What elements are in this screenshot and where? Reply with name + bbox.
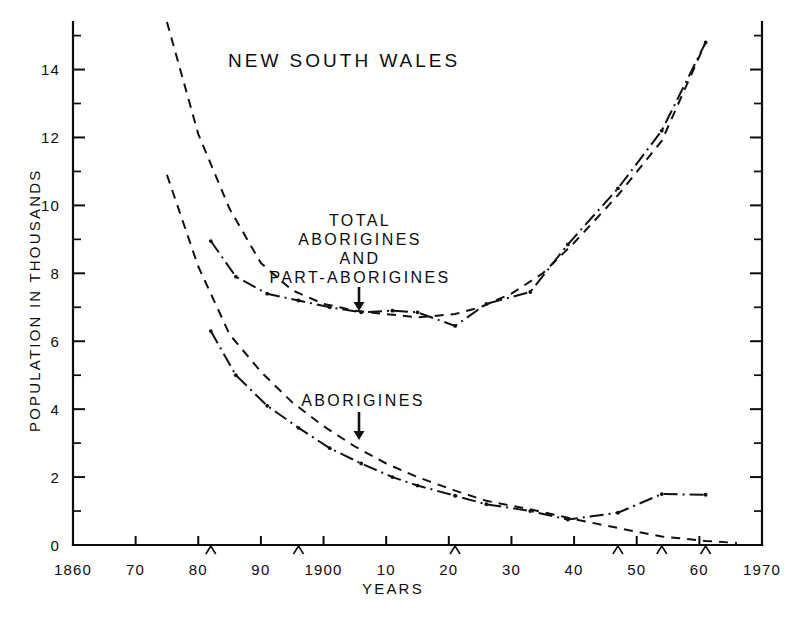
- y-tick-label: 2: [50, 469, 60, 486]
- data-point-markers: [209, 40, 708, 521]
- tick-marks: [73, 36, 762, 545]
- data-point: [359, 310, 363, 314]
- x-tick-label: 10: [377, 561, 396, 578]
- data-point: [416, 484, 420, 488]
- x-tick-label: 30: [502, 561, 521, 578]
- data-point: [328, 305, 332, 309]
- data-point: [616, 187, 620, 191]
- plot-area: 1860708090190010203040506019700246810121…: [0, 0, 804, 619]
- data-point: [453, 324, 457, 328]
- data-point: [485, 302, 489, 306]
- data-point: [616, 511, 620, 515]
- x-tick-label: 90: [251, 561, 270, 578]
- annotation-arrows: [354, 287, 365, 440]
- data-point: [704, 493, 708, 497]
- census-year-marker: [293, 546, 303, 554]
- census-year-markers: [206, 546, 711, 554]
- down-arrow: [354, 412, 365, 440]
- y-tick-label: 8: [50, 265, 60, 282]
- data-point: [416, 310, 420, 314]
- data-point: [234, 373, 238, 377]
- data-point: [704, 40, 708, 44]
- data-point: [566, 518, 570, 522]
- series-line: [167, 22, 706, 317]
- data-point: [391, 475, 395, 479]
- data-point: [566, 243, 570, 247]
- data-point: [265, 292, 269, 296]
- data-point: [297, 299, 301, 303]
- data-point: [391, 309, 395, 313]
- y-tick-label: 4: [50, 401, 60, 418]
- census-year-marker: [206, 546, 216, 554]
- data-point: [297, 426, 301, 430]
- data-series: [167, 22, 737, 543]
- data-point: [209, 329, 213, 333]
- y-tick-label: 0: [50, 537, 60, 554]
- data-point: [660, 129, 664, 133]
- y-tick-label: 14: [41, 61, 60, 78]
- census-year-marker: [657, 546, 667, 554]
- x-tick-label: 80: [189, 561, 208, 578]
- x-tick-label: 20: [439, 561, 458, 578]
- tick-labels: 1860708090190010203040506019700246810121…: [41, 61, 781, 578]
- data-point: [265, 404, 269, 408]
- data-point: [660, 492, 664, 496]
- chart-figure: NEW SOUTH WALES POPULATION IN THOUSANDS …: [0, 0, 804, 619]
- data-point: [453, 494, 457, 498]
- x-tick-label: 40: [565, 561, 584, 578]
- y-tick-label: 6: [50, 333, 60, 350]
- x-tick-label: 1970: [743, 561, 781, 578]
- y-tick-label: 10: [41, 197, 60, 214]
- x-tick-label: 70: [126, 561, 145, 578]
- data-point: [528, 290, 532, 294]
- census-year-marker: [613, 546, 623, 554]
- x-tick-label: 50: [627, 561, 646, 578]
- data-point: [209, 239, 213, 243]
- y-tick-label: 12: [41, 129, 60, 146]
- data-point: [528, 509, 532, 513]
- data-point: [485, 502, 489, 506]
- data-point: [234, 275, 238, 279]
- data-point: [359, 462, 363, 466]
- axes: [73, 22, 762, 545]
- census-year-marker: [701, 546, 711, 554]
- series-line: [167, 175, 737, 543]
- data-point: [328, 446, 332, 450]
- down-arrow: [354, 287, 365, 311]
- x-tick-label: 1860: [54, 561, 92, 578]
- census-year-marker: [450, 546, 460, 554]
- x-tick-label: 60: [690, 561, 709, 578]
- x-tick-label: 1900: [304, 561, 342, 578]
